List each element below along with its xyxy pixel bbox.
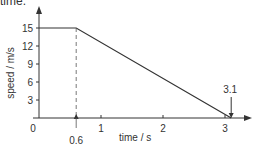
y-axis-label: speed / m/s bbox=[5, 47, 16, 99]
y-axis-arrow bbox=[36, 6, 42, 14]
y-tick-label: 12 bbox=[22, 41, 34, 52]
annotation-label-3-1: 3.1 bbox=[223, 84, 237, 95]
y-tick-label: 15 bbox=[22, 23, 34, 34]
speed-time-chart: time / sspeed / m/s 03691215123 0.63.1 bbox=[0, 0, 255, 148]
x-tick-label: 1 bbox=[98, 123, 104, 134]
x-axis-arrow bbox=[244, 115, 252, 121]
y-tick-label: 6 bbox=[27, 77, 33, 88]
speed-line bbox=[39, 28, 231, 118]
origin-label: 0 bbox=[30, 123, 36, 134]
y-tick-label: 3 bbox=[27, 95, 33, 106]
annotation-label-0-6: 0.6 bbox=[69, 135, 83, 146]
x-tick-label: 3 bbox=[222, 123, 228, 134]
y-tick-label: 9 bbox=[27, 59, 33, 70]
x-tick-label: 2 bbox=[160, 123, 166, 134]
x-axis-label: time / s bbox=[119, 132, 151, 143]
